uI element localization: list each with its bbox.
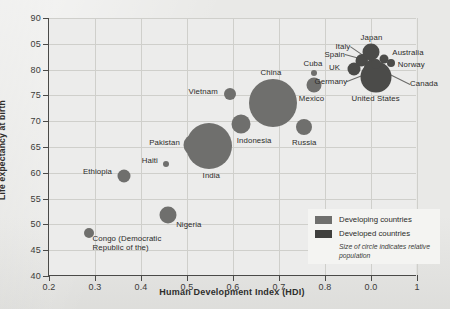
point-label: Indonesia [237,137,272,147]
point-label: Pakistan [149,138,180,148]
bubble-china[interactable] [249,79,297,127]
y-tick-label: 60 [31,168,41,178]
bubble-indonesia[interactable] [231,115,250,134]
y-tick-label: 50 [31,219,41,229]
bubble-haiti[interactable] [163,161,169,167]
point-label: Vietnam [189,88,218,98]
point-label: Canada [410,80,438,90]
x-tick [95,275,96,281]
bubble-russia[interactable] [296,119,312,135]
legend-item-developing: Developing countries [315,215,434,224]
x-tick-label: 0.5 [180,282,193,292]
point-label: United States [337,95,415,105]
y-tick-label: 40 [31,271,41,281]
point-label: Spain [324,51,344,61]
point-label: Mexico [299,94,324,104]
point-label: India [203,172,220,182]
legend-swatch-developed [315,230,332,238]
point-label: Italy [335,42,350,52]
y-tick-label: 80 [31,65,41,75]
x-tick [49,275,50,281]
legend-label-developing: Developing countries [339,215,412,224]
x-tick-label: 0.4 [134,282,147,292]
x-tick [141,275,142,281]
point-label: Norway [398,60,425,70]
y-tick [43,18,49,19]
legend: Developing countries Developed countries… [308,209,440,264]
y-tick-label: 65 [31,142,41,152]
x-tick-label: 0.7 [272,282,285,292]
x-tick [279,275,280,281]
y-tick-label: 55 [31,194,41,204]
x-tick-label: 0.0 [364,282,377,292]
y-tick [43,121,49,122]
y-tick [43,95,49,96]
bubble-vietnam[interactable] [224,88,236,100]
y-tick [43,250,49,251]
legend-note: Size of circle indicates relative popula… [339,243,434,260]
bubble-nigeria[interactable] [160,206,177,223]
y-tick-label: 90 [31,13,41,23]
point-label: UK [329,63,340,73]
point-label: Russia [292,139,316,149]
bubble-cuba[interactable] [311,70,317,76]
y-axis-title: Life expectancy at birth [0,100,7,200]
gridline-horizontal [49,199,416,200]
bubble-india[interactable] [186,123,232,169]
point-label: Nigeria [176,220,201,230]
gridline-horizontal [49,147,416,148]
x-tick-label: 0.3 [88,282,101,292]
bubble-norway[interactable] [387,59,395,67]
legend-swatch-developing [315,216,332,224]
point-label: China [261,68,282,78]
point-label: Germany [315,77,348,87]
bubble-chart-figure: Life expectancy at birth Human Developme… [0,0,450,309]
x-tick-label: 0.6 [226,282,239,292]
x-tick [325,275,326,281]
x-tick-label: 0.2 [42,282,55,292]
y-tick [43,199,49,200]
gridline-horizontal [49,18,416,19]
x-tick [371,275,372,281]
point-label: Cuba [303,59,322,69]
point-label: Haiti [142,156,158,166]
point-label: Congo (Democratic Republic of the) [93,233,171,252]
legend-item-developed: Developed countries [315,229,434,238]
point-label: Japan [361,33,383,43]
x-tick-label: 0.8 [318,282,331,292]
legend-label-developed: Developed countries [339,229,410,238]
bubble-canada[interactable] [371,59,381,69]
x-tick [233,275,234,281]
y-tick [43,224,49,225]
gridline-horizontal [49,44,416,45]
y-tick [43,173,49,174]
y-tick-label: 45 [31,245,41,255]
y-tick [43,70,49,71]
y-tick [43,147,49,148]
x-tick [187,275,188,281]
x-tick-label: 1 [414,282,419,292]
y-tick-label: 05 [31,39,41,49]
y-tick-label: 70 [31,116,41,126]
y-tick-label: 75 [31,90,41,100]
y-tick [43,44,49,45]
x-tick [417,275,418,281]
bubble-ethiopia[interactable] [117,170,130,183]
point-label: Ethiopia [83,168,112,178]
bubble-japan[interactable] [363,44,380,61]
point-label: Australia [392,49,423,59]
